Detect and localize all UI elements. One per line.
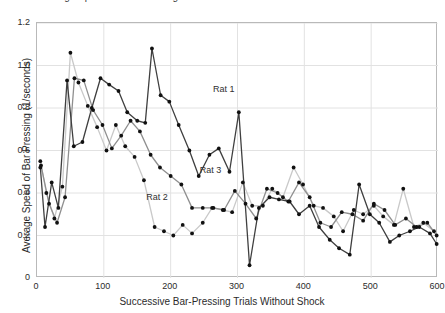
data-point — [337, 246, 341, 250]
data-point — [95, 125, 99, 129]
data-point — [308, 195, 312, 199]
data-point — [308, 204, 312, 208]
data-point — [425, 221, 429, 225]
x-tick-label: 0 — [33, 281, 38, 291]
data-point — [297, 180, 301, 184]
data-point — [351, 212, 355, 216]
data-point — [117, 89, 121, 93]
data-point — [276, 191, 280, 195]
data-point — [77, 81, 81, 85]
data-point — [237, 110, 241, 114]
data-point — [217, 146, 221, 150]
data-point — [254, 217, 258, 221]
data-point — [348, 253, 352, 257]
data-point — [65, 78, 69, 82]
data-point — [368, 212, 372, 216]
series-line-rat-3 — [41, 78, 437, 235]
data-point — [81, 140, 85, 144]
data-point — [177, 123, 181, 127]
data-point — [190, 206, 194, 210]
data-point — [401, 187, 405, 191]
data-point — [171, 234, 175, 238]
x-axis-ticks: 0100200300400500600 — [0, 281, 444, 295]
data-point — [133, 155, 137, 159]
data-point — [257, 206, 261, 210]
data-point — [38, 166, 42, 170]
data-point — [312, 204, 316, 208]
data-point — [248, 263, 252, 267]
data-point — [125, 110, 129, 114]
data-point — [317, 225, 321, 229]
data-point — [69, 51, 73, 55]
data-point — [138, 129, 142, 133]
x-tick-label: 600 — [429, 281, 444, 291]
data-point — [187, 149, 191, 153]
data-point — [129, 119, 133, 123]
data-point — [44, 191, 48, 195]
data-point — [228, 170, 232, 174]
data-point — [233, 189, 237, 193]
data-point — [361, 219, 365, 223]
data-point — [281, 195, 285, 199]
x-tick-label: 100 — [95, 281, 110, 291]
data-point — [149, 153, 153, 157]
data-point — [107, 83, 111, 87]
data-point — [297, 212, 301, 216]
data-point — [288, 200, 292, 204]
data-point — [158, 166, 162, 170]
data-point — [123, 144, 127, 148]
x-tick-label: 400 — [296, 281, 311, 291]
data-point — [377, 221, 381, 225]
data-point — [230, 210, 234, 214]
data-point — [73, 76, 77, 80]
series-annotation-rat-3: Rat 3 — [200, 165, 222, 175]
x-tick-label: 200 — [162, 281, 177, 291]
data-point — [119, 134, 123, 138]
data-point — [321, 206, 325, 210]
data-point — [56, 206, 60, 210]
data-point — [190, 231, 194, 235]
data-point — [47, 202, 51, 206]
x-tick-label: 300 — [229, 281, 244, 291]
data-point — [432, 229, 436, 233]
data-point — [201, 221, 205, 225]
data-point — [135, 119, 139, 123]
data-point — [159, 93, 163, 97]
data-point — [101, 123, 105, 127]
data-point — [179, 183, 183, 187]
data-point — [110, 146, 114, 150]
data-point — [50, 180, 54, 184]
data-point — [241, 180, 245, 184]
data-point — [212, 206, 216, 210]
chart-title: Average Speed of Bar Pressing on Success… — [0, 0, 444, 2]
data-point — [268, 195, 272, 199]
data-point — [397, 234, 401, 238]
y-tick-label: 1.2 — [17, 17, 30, 27]
data-point — [265, 187, 269, 191]
data-point — [167, 100, 171, 104]
data-point — [150, 47, 154, 51]
data-point — [114, 123, 118, 127]
data-point — [277, 197, 281, 201]
data-point — [318, 221, 322, 225]
data-point — [153, 225, 157, 229]
data-point — [383, 208, 387, 212]
data-point — [332, 214, 336, 218]
data-point — [86, 104, 90, 108]
data-point — [393, 223, 397, 227]
data-point — [222, 208, 226, 212]
data-point — [162, 229, 166, 233]
data-point — [361, 212, 365, 216]
data-point — [352, 208, 356, 212]
data-point — [142, 178, 146, 182]
series-annotation-rat-2: Rat 2 — [146, 192, 168, 202]
data-point — [404, 217, 408, 221]
data-point — [301, 183, 305, 187]
data-point — [341, 229, 345, 233]
data-point — [340, 210, 344, 214]
data-point — [90, 106, 94, 110]
data-point — [292, 166, 296, 170]
data-point — [328, 238, 332, 242]
data-point — [435, 234, 439, 238]
